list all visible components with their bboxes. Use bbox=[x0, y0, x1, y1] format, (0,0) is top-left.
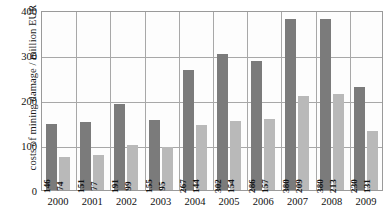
bar[interactable]: 74 bbox=[59, 157, 70, 190]
bar-group: 230131 bbox=[350, 12, 384, 190]
bar-group: 15595 bbox=[145, 12, 179, 190]
bar-group: 19199 bbox=[110, 12, 144, 190]
bar-value-label: 99 bbox=[123, 181, 133, 190]
bar[interactable]: 155 bbox=[149, 120, 160, 190]
plot-area: 1467415177191991559526714430215428615738… bbox=[41, 11, 383, 191]
bar[interactable]: 154 bbox=[230, 121, 241, 190]
bar-group: 286157 bbox=[247, 12, 281, 190]
bar-value-label: 146 bbox=[42, 179, 52, 193]
bar-value-label: 302 bbox=[213, 179, 223, 193]
bar[interactable]: 230 bbox=[354, 87, 365, 191]
bar[interactable]: 95 bbox=[162, 147, 173, 190]
bar[interactable]: 131 bbox=[367, 131, 378, 190]
bar-value-label: 95 bbox=[157, 181, 167, 190]
bar[interactable]: 380 bbox=[320, 19, 331, 190]
bar-value-label: 77 bbox=[89, 181, 99, 190]
bar-value-label: 209 bbox=[294, 179, 304, 193]
bar-value-label: 131 bbox=[362, 179, 372, 193]
bar[interactable]: 191 bbox=[114, 104, 125, 190]
y-tick-label: 100 bbox=[3, 141, 37, 152]
bar-value-label: 286 bbox=[247, 179, 257, 193]
y-tick-label: 200 bbox=[3, 96, 37, 107]
bar[interactable]: 77 bbox=[93, 155, 104, 190]
bar-value-label: 154 bbox=[226, 179, 236, 193]
bar-value-label: 74 bbox=[55, 181, 65, 190]
bar-value-label: 267 bbox=[178, 179, 188, 193]
bar-value-label: 191 bbox=[110, 179, 120, 193]
y-tick-label: 400 bbox=[3, 6, 37, 17]
bar[interactable]: 144 bbox=[196, 125, 207, 190]
bar-value-label: 157 bbox=[260, 179, 270, 193]
bar[interactable]: 209 bbox=[298, 96, 309, 190]
bar[interactable]: 157 bbox=[264, 119, 275, 190]
bar[interactable]: 302 bbox=[217, 54, 228, 190]
bar-group: 380213 bbox=[316, 12, 350, 190]
bar-value-label: 380 bbox=[281, 179, 291, 193]
bar[interactable]: 151 bbox=[80, 122, 91, 190]
bar-chart: costs of mining damage / million EUR 010… bbox=[0, 0, 390, 220]
bar-value-label: 155 bbox=[144, 179, 154, 193]
bar-value-label: 213 bbox=[328, 179, 338, 193]
bar[interactable]: 286 bbox=[251, 61, 262, 190]
bar-group: 267144 bbox=[179, 12, 213, 190]
bar[interactable]: 99 bbox=[127, 145, 138, 190]
bar-value-label: 230 bbox=[349, 179, 359, 193]
bar[interactable]: 380 bbox=[285, 19, 296, 190]
bar-value-label: 151 bbox=[76, 179, 86, 193]
bar[interactable]: 267 bbox=[183, 70, 194, 190]
bar-value-label: 380 bbox=[315, 179, 325, 193]
bar[interactable]: 213 bbox=[333, 94, 344, 190]
x-tick-label: 2009 bbox=[343, 196, 389, 207]
y-tick-label: 300 bbox=[3, 51, 37, 62]
bar-group: 14674 bbox=[42, 12, 76, 190]
bar-group: 380209 bbox=[281, 12, 315, 190]
bar-value-label: 144 bbox=[191, 179, 201, 193]
y-axis-title: costs of mining damage / million EUR bbox=[27, 0, 38, 183]
y-tick-label: 0 bbox=[3, 186, 37, 197]
bar[interactable]: 146 bbox=[46, 124, 57, 190]
bar-group: 15177 bbox=[76, 12, 110, 190]
bar-group: 302154 bbox=[213, 12, 247, 190]
